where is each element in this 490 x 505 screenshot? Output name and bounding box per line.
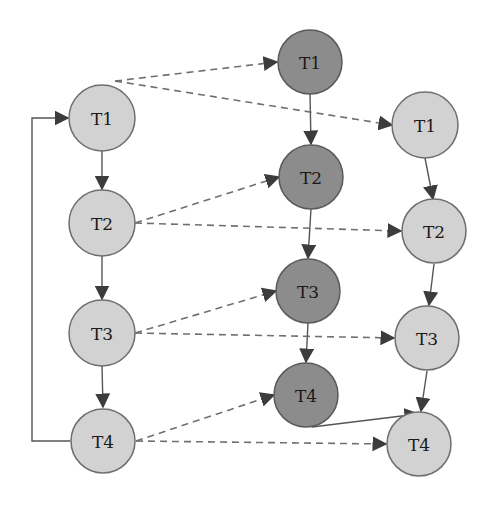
edge-M2-M3 (308, 209, 311, 258)
node-label: T4 (92, 432, 114, 452)
node-right-2: T2 (402, 199, 466, 263)
node-label: T3 (91, 324, 113, 344)
node-left-4: T4 (71, 409, 135, 473)
edge-L1-R1 (115, 81, 392, 125)
node-label: T1 (414, 116, 436, 136)
edge-R1-R2 (425, 158, 433, 199)
node-label: T1 (91, 109, 113, 129)
edge-M3-M4 (306, 323, 308, 362)
task-graph-diagram: T1 T2 T3 T4 T1 T2 T3 T4 T1 T2 T3 (0, 0, 490, 505)
node-label: T3 (297, 282, 319, 302)
edge-R2-R3 (429, 264, 434, 305)
node-right-3: T3 (395, 306, 459, 370)
node-label: T1 (299, 53, 321, 73)
node-left-3: T3 (69, 300, 135, 366)
node-middle-2: T2 (279, 145, 343, 209)
node-label: T3 (416, 329, 438, 349)
edge-L3-R3 (135, 333, 394, 338)
node-label: T4 (295, 386, 317, 406)
edge-L1-M1 (115, 62, 277, 81)
node-left-1: T1 (69, 85, 135, 151)
edge-L3-M3 (135, 291, 276, 333)
node-middle-4: T4 (274, 363, 338, 427)
edge-L2-M2 (135, 177, 279, 223)
node-label: T2 (300, 168, 322, 188)
edge-L2-R2 (135, 223, 401, 231)
edge-L4-L1-feedback (32, 118, 70, 441)
edge-L4-R4 (136, 441, 386, 444)
node-left-2: T2 (69, 190, 135, 256)
node-middle-3: T3 (276, 259, 340, 323)
node-right-4: T4 (387, 412, 451, 476)
node-label: T2 (423, 222, 445, 242)
edge-M1-M2 (310, 94, 311, 144)
edge-L3-L4 (102, 366, 103, 407)
node-middle-1: T1 (278, 30, 342, 94)
node-label: T4 (408, 435, 430, 455)
edge-R3-R4 (421, 371, 427, 411)
node-label: T2 (91, 214, 113, 234)
edge-L4-M4 (136, 395, 274, 441)
node-right-1: T1 (392, 92, 458, 158)
